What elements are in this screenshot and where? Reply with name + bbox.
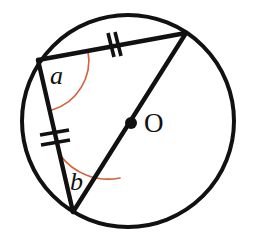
- geometry-canvas: O a b: [0, 0, 257, 237]
- center-dot: [125, 117, 137, 129]
- center-label-O: O: [144, 108, 164, 138]
- angle-a-label: a: [50, 61, 63, 90]
- angle-b-label: b: [70, 167, 83, 196]
- geometry-figure: O a b: [0, 0, 257, 237]
